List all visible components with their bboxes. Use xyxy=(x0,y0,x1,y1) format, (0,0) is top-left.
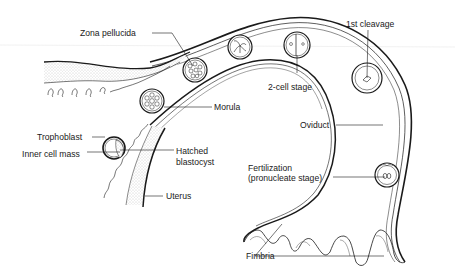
embryo-hatched-blastocyst xyxy=(103,137,125,159)
embryo-two-cell xyxy=(284,32,310,58)
embryo-morula xyxy=(140,89,164,113)
label-zona-pellucida: Zona pellucida xyxy=(80,28,136,38)
label-first-cleavage: 1st cleavage xyxy=(346,19,394,29)
label-hatched-blastocyst-line2: blastocyst xyxy=(176,157,214,167)
label-hatched-blastocyst-line1: Hatched xyxy=(176,146,208,156)
label-fertilization-line1: Fertilization xyxy=(248,163,292,173)
oviduct-diagram: Zona pellucida 1st cleavage 2-cell stage… xyxy=(0,0,455,276)
label-inner-cell-mass: Inner cell mass xyxy=(22,149,80,159)
uterus-upper-band xyxy=(44,52,190,97)
embryo-morula-zona xyxy=(183,58,207,82)
embryo-fertilization xyxy=(375,163,399,187)
label-oviduct: Oviduct xyxy=(300,120,329,130)
label-uterus: Uterus xyxy=(166,191,191,201)
label-morula: Morula xyxy=(214,102,240,112)
label-trophoblast: Trophoblast xyxy=(37,132,82,142)
leader-lines xyxy=(87,30,385,256)
label-two-cell-stage: 2-cell stage xyxy=(268,82,312,92)
label-fimbria: Fimbria xyxy=(246,251,275,261)
embryo-four-cell xyxy=(228,35,252,59)
label-fertilization-line2: (pronucleate stage) xyxy=(248,173,322,183)
